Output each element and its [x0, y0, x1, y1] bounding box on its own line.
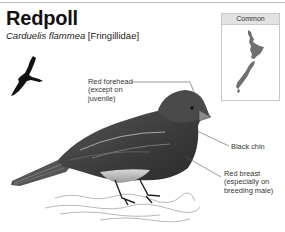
- label-breast: Red breast (especially on breeding male): [224, 170, 273, 195]
- label-forehead: Red forehead (except on juvenile): [88, 78, 133, 103]
- label-forehead-line3: juvenile): [88, 95, 133, 103]
- label-breast-line3: breeding male): [224, 187, 273, 195]
- label-chin: Black chin: [231, 143, 265, 151]
- annotation-leader-lines: [0, 0, 285, 232]
- label-chin-line1: Black chin: [231, 143, 265, 151]
